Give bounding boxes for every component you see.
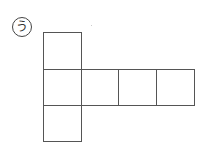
net-square-left-top	[43, 32, 82, 70]
stray-dot	[91, 25, 92, 26]
net-square-row-4	[156, 69, 195, 106]
net-square-left-middle	[43, 69, 82, 106]
net-square-left-bottom	[43, 105, 82, 142]
net-square-row-3	[118, 69, 157, 106]
net-square-row-2	[81, 69, 119, 106]
figure-label-circled-u: う	[12, 17, 32, 37]
